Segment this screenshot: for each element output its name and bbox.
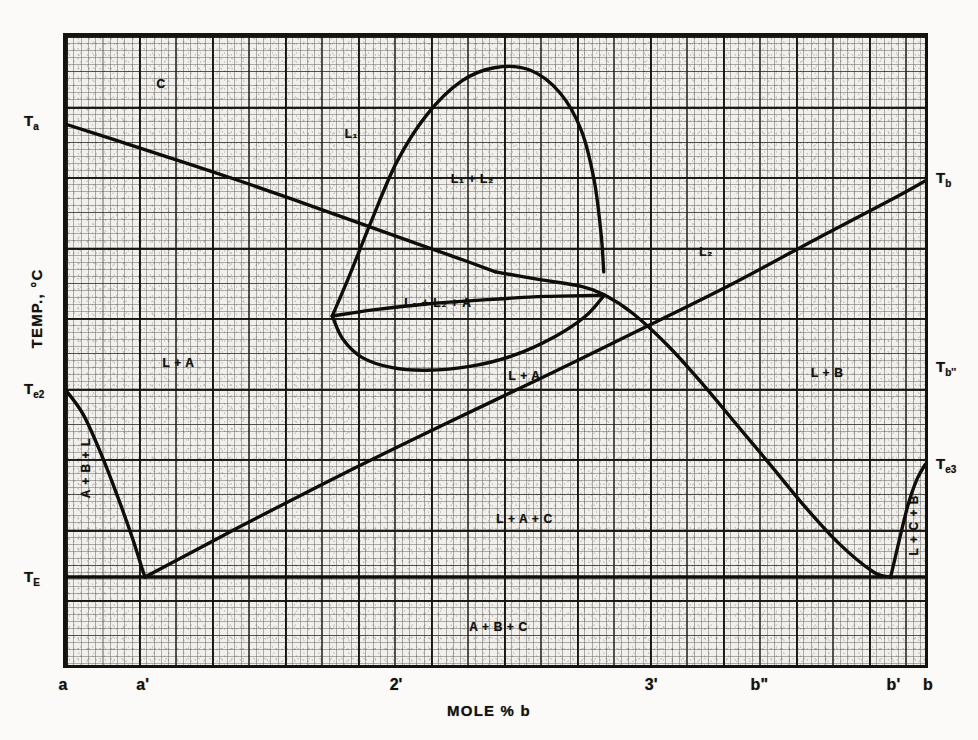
phase-boundary-curve-1 — [332, 66, 603, 316]
region-label-l-c-b: L + C + B — [907, 494, 921, 555]
y-tick-T-E: TE — [24, 568, 40, 588]
region-label-l-a-c: L + A + C — [496, 512, 552, 526]
region-label-l-a: L + A — [508, 369, 540, 383]
y-tick-T-bprimeprime: Tb'' — [936, 358, 956, 378]
y-tick-T-e3: Te3 — [936, 455, 956, 475]
region-label-l: L₂ — [699, 245, 713, 259]
region-label-l-l: L₁ + L₂ — [451, 172, 494, 186]
phase-boundary-curve-4 — [495, 272, 890, 577]
y-axis-title: TEMP., °C — [28, 229, 45, 389]
phase-boundary-curve-6 — [66, 390, 145, 577]
y-tick-T-b: Tb — [936, 169, 951, 189]
x-tick-b-prime: b' — [887, 676, 901, 694]
phase-boundary-curves — [66, 36, 925, 667]
region-label-a-b-c: A + B + C — [469, 620, 527, 634]
x-tick-3-prime: 3' — [645, 676, 658, 694]
region-label-c: C — [157, 77, 166, 91]
x-tick-b: b — [923, 676, 933, 694]
region-label-l-b: L + B — [811, 366, 843, 380]
region-label-l: L₁ — [345, 127, 359, 141]
x-axis-title: MOLE % b — [0, 702, 978, 719]
phase-diagram-figure: CL₁L₁ + L₂L₂L₁ + L₂ + AL + AL + AL + BL … — [0, 0, 978, 740]
x-tick-a-prime: a' — [136, 676, 149, 694]
region-label-a-b-l: A + B + L — [79, 438, 93, 499]
x-tick-a: a — [59, 676, 68, 694]
region-label-l-l-a: L₁ + L₂ + A — [404, 296, 471, 310]
y-tick-T-a: Ta — [24, 112, 39, 132]
plot-area: CL₁L₁ + L₂L₂L₁ + L₂ + AL + AL + AL + BL … — [63, 33, 928, 668]
x-tick-b-dprime: b" — [751, 676, 768, 694]
x-tick-2-prime: 2' — [390, 676, 403, 694]
phase-boundary-curve-0 — [66, 124, 495, 272]
region-label-l-a: L + A — [162, 356, 194, 370]
